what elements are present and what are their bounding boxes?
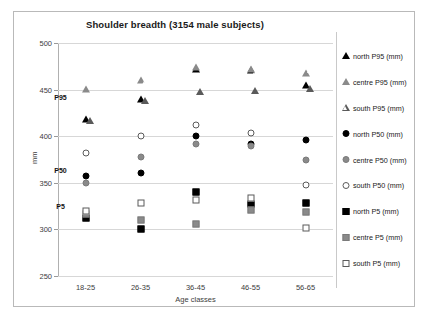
y-tick-label: 450 [39,85,52,94]
chart-legend: north P95 (mm)centre P95 (mm)south P95 (… [341,43,415,276]
legend-marker-icon [341,259,350,268]
y-axis-title: mm [30,152,39,165]
legend-item[interactable]: south P95 (mm) [341,103,404,112]
gridline [58,276,333,277]
group-annotation: P95 [54,94,66,101]
legend-label: centre P95 (mm) [353,77,407,86]
legend-marker-icon [341,129,350,138]
legend-item[interactable]: north P95 (mm) [341,51,403,60]
legend-marker-icon [341,51,350,60]
gridline [58,183,333,184]
y-tick-label: 500 [39,39,52,48]
chart-figure: Shoulder breadth (3154 male subjects) mm… [13,11,415,307]
legend-marker-icon [341,77,350,86]
legend-label: south P95 (mm) [353,103,404,112]
legend-label: south P5 (mm) [353,259,400,268]
y-tick-label: 400 [39,132,52,141]
x-tick-label: 36-45 [186,283,205,292]
legend-marker-icon [341,233,350,242]
legend-label: north P95 (mm) [353,51,403,60]
legend-label: north P50 (mm) [353,129,403,138]
legend-marker-icon [341,181,350,190]
x-tick-label: 26-35 [131,283,150,292]
x-tick-label: 46-55 [241,283,260,292]
x-tick-label: 18-25 [76,283,95,292]
y-axis-line [58,43,59,276]
gridline [58,229,333,230]
y-tick-mark [54,183,58,184]
x-tick-label: 56-65 [296,283,315,292]
legend-label: centre P5 (mm) [353,233,403,242]
y-tick-label: 250 [39,272,52,281]
legend-item[interactable]: centre P50 (mm) [341,155,407,164]
plot-area: 250300350400450500 18-2526-3536-4546-555… [58,43,333,276]
y-tick-mark [54,276,58,277]
x-axis-title: Age classes [58,295,333,304]
y-tick-label: 300 [39,225,52,234]
gridline [58,43,333,44]
legend-marker-icon [341,155,350,164]
legend-marker-icon [341,103,350,112]
y-tick-mark [54,136,58,137]
legend-label: south P50 (mm) [353,181,404,190]
y-tick-label: 350 [39,178,52,187]
legend-item[interactable]: centre P5 (mm) [341,233,403,242]
legend-item[interactable]: north P5 (mm) [341,207,399,216]
legend-marker-icon [341,207,350,216]
group-annotation: P50 [54,166,66,173]
chart-title: Shoulder breadth (3154 male subjects) [14,19,336,30]
y-tick-mark [54,90,58,91]
legend-item[interactable]: south P5 (mm) [341,259,400,268]
legend-item[interactable]: south P50 (mm) [341,181,404,190]
y-tick-mark [54,43,58,44]
legend-label: centre P50 (mm) [353,155,407,164]
legend-item[interactable]: north P50 (mm) [341,129,403,138]
legend-divider [336,32,337,288]
y-tick-mark [54,229,58,230]
legend-item[interactable]: centre P95 (mm) [341,77,407,86]
legend-label: north P5 (mm) [353,207,399,216]
group-annotation: P5 [56,203,65,210]
